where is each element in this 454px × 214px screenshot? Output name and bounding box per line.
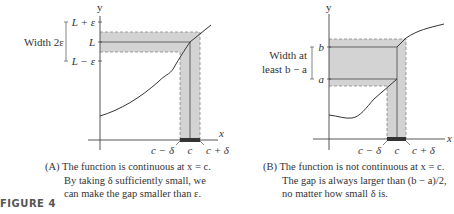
x-label-c: c bbox=[188, 144, 193, 156]
caption-b-line2: The gap is always larger than (b − a)/2, bbox=[263, 174, 447, 188]
x-label-c-plus-delta: c + δ bbox=[206, 144, 230, 156]
width-label: Width 2ε bbox=[24, 36, 64, 48]
caption-a-line3: can make the gap smaller than ε. bbox=[45, 187, 211, 201]
caption-b-line3: no matter how small δ is. bbox=[263, 187, 447, 201]
y-axis-label: y bbox=[97, 1, 103, 13]
delta-interval bbox=[180, 138, 200, 142]
tick-b: b bbox=[319, 41, 325, 53]
delta-interval bbox=[387, 137, 406, 141]
tick-a: a bbox=[319, 73, 325, 85]
caption-b-line1: (B) The function is not continuous at x … bbox=[263, 160, 447, 174]
width-label-line1: Width at bbox=[269, 49, 307, 61]
width-label-line2: least b − a bbox=[262, 63, 307, 75]
delta-band bbox=[387, 39, 406, 139]
x-label-c-minus-delta: c − δ bbox=[358, 144, 382, 156]
x-label-c-minus-delta: c − δ bbox=[151, 144, 175, 156]
figure-label: FIGURE 4 bbox=[0, 198, 56, 209]
panel-b: y x b a Width at least b − a c − δ c c +… bbox=[262, 1, 452, 156]
x-axis-label: x bbox=[218, 127, 224, 139]
x-axis-label: x bbox=[446, 132, 452, 144]
caption-a-line2: By taking δ sufficiently small, we bbox=[45, 174, 211, 188]
width-bracket bbox=[310, 47, 314, 79]
caption-b: (B) The function is not continuous at x … bbox=[263, 160, 447, 201]
panel-a: y x L + ε L L − ε Width 2ε c − δ c c + δ bbox=[24, 1, 230, 156]
tick-l-minus-eps: L − ε bbox=[71, 55, 96, 67]
width-bracket bbox=[64, 22, 68, 61]
tick-l-plus-eps: L + ε bbox=[71, 16, 96, 28]
caption-a: (A) The function is continuous at x = c.… bbox=[45, 160, 211, 201]
tick-l: L bbox=[88, 36, 95, 48]
caption-a-line1: (A) The function is continuous at x = c. bbox=[45, 160, 211, 174]
x-label-c-plus-delta: c + δ bbox=[412, 144, 436, 156]
y-axis-label: y bbox=[326, 1, 332, 13]
x-label-c: c bbox=[395, 144, 400, 156]
